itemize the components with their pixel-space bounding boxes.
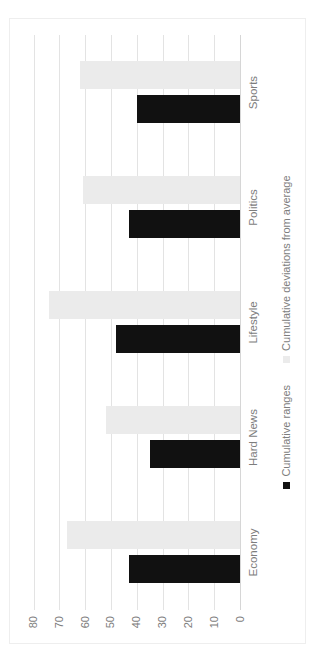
bar-cumulative-deviations (80, 62, 240, 90)
value-axis-tick-label: 60 (79, 616, 92, 652)
value-axis-tick-label: 40 (130, 616, 143, 652)
value-axis-tick-label: 50 (104, 616, 117, 652)
chart-stage: Cumulative ranges Cumulative deviations … (0, 0, 315, 664)
bar-cumulative-deviations (106, 407, 240, 435)
legend-item-cumulative-deviations: Cumulative deviations from average (279, 175, 293, 362)
bar-cumulative-ranges (137, 95, 240, 123)
gridline (59, 35, 60, 610)
value-axis-tick-label: 70 (53, 616, 66, 652)
category-axis-label: Politics (246, 153, 261, 263)
legend-marker-gray-square-icon (283, 356, 290, 363)
category-axis-label: Sports (246, 38, 261, 148)
chart-legend: Cumulative ranges Cumulative deviations … (279, 0, 293, 664)
value-axis-tick-label: 80 (27, 616, 40, 652)
bar-cumulative-deviations (83, 177, 240, 205)
category-axis-label: Lifestyle (246, 268, 261, 378)
category-axis-line (240, 35, 241, 610)
bar-cumulative-deviations (67, 522, 240, 550)
value-axis-tick-label: 30 (156, 616, 169, 652)
category-axis-label: Hard News (246, 383, 261, 493)
category-axis-label: Economy (246, 498, 261, 608)
value-axis-tick-label: 10 (208, 616, 221, 652)
value-axis-tick-label: 0 (234, 616, 247, 652)
bar-cumulative-deviations (49, 292, 240, 320)
legend-label-cumulative-ranges: Cumulative ranges (279, 385, 293, 477)
bar-cumulative-ranges (129, 555, 240, 583)
bar-cumulative-ranges (129, 210, 240, 238)
legend-item-cumulative-ranges: Cumulative ranges (279, 385, 293, 489)
bar-cumulative-ranges (116, 325, 240, 353)
legend-marker-black-square-icon (283, 482, 290, 489)
value-axis-tick-label: 20 (182, 616, 195, 652)
gridline (34, 35, 35, 610)
bar-cumulative-ranges (150, 440, 240, 468)
legend-label-cumulative-deviations: Cumulative deviations from average (279, 175, 293, 350)
